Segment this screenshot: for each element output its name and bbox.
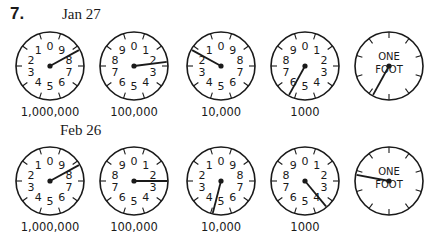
dial-numeral: 1 (313, 44, 320, 57)
dial-numeral: 5 (218, 80, 225, 93)
dial-tick (22, 161, 27, 165)
dial-tick (73, 161, 78, 165)
dial-tick (328, 197, 333, 201)
dial-tick (294, 34, 296, 40)
dial-tick (405, 153, 409, 158)
dial-tick (294, 93, 296, 99)
dial-numeral: 9 (229, 159, 236, 172)
dial-numeral: 1 (35, 159, 42, 172)
dial-numeral: 6 (229, 76, 236, 89)
dial-tick (357, 55, 363, 57)
dial-numeral: 2 (321, 54, 328, 67)
dial-hub (302, 178, 307, 183)
dial-numeral: 4 (142, 191, 149, 204)
dial-tick (143, 149, 145, 155)
dial-numeral: 0 (302, 155, 309, 168)
dial-numeral: 5 (47, 80, 54, 93)
dial-tick (106, 46, 111, 50)
dial-tick (106, 161, 111, 165)
dial-numeral: 2 (321, 169, 328, 182)
dial-tick (106, 197, 111, 201)
dial-tick (328, 46, 333, 50)
dial-numeral: 0 (131, 155, 138, 168)
dial-numeral: 9 (58, 159, 65, 172)
dial-caption: 100,000 (110, 220, 158, 234)
dial-numeral: 1 (35, 44, 42, 57)
dial-numeral: 4 (35, 191, 42, 204)
dial-tick (277, 46, 282, 50)
dial-numeral: 1 (142, 44, 149, 57)
dial-caption: 1,000,000 (21, 105, 80, 119)
dial-tick (39, 208, 41, 214)
dial-tick (22, 46, 27, 50)
dial-numeral: 3 (321, 66, 328, 79)
dial-caption: 1000 (290, 105, 319, 119)
dial-numeral: 5 (218, 195, 225, 208)
dial-tick (244, 46, 249, 50)
dial-tick (73, 82, 78, 86)
dial-tick (369, 89, 373, 94)
meter-dial-1-1: 01234567891,000,000 (16, 32, 84, 119)
dial-tick (143, 208, 145, 214)
dial-numeral: 9 (229, 44, 236, 57)
dial-numeral: 2 (27, 169, 34, 182)
dial-numeral: 8 (237, 54, 244, 67)
dial-numeral: 3 (27, 66, 34, 79)
one-foot-label: ONE (378, 51, 400, 62)
dial-tick (123, 93, 125, 99)
dial-tick (157, 197, 162, 201)
meter-dial-1-2: 0123456789100,000 (100, 32, 168, 119)
dial-tick (123, 208, 125, 214)
dial-numeral: 0 (131, 40, 138, 53)
dial-tick (357, 75, 363, 77)
dial-numeral: 3 (321, 181, 328, 194)
dial-numeral: 6 (119, 191, 126, 204)
dial-numeral: 9 (58, 44, 65, 57)
dial-numeral: 2 (198, 169, 205, 182)
dial-tick (59, 34, 61, 40)
dial-caption: 100,000 (110, 105, 158, 119)
dial-numeral: 6 (58, 76, 65, 89)
dial-tick (314, 93, 316, 99)
dial-numeral: 3 (150, 181, 157, 194)
dial-tick (405, 38, 409, 43)
dial-tick (328, 161, 333, 165)
dial-tick (405, 89, 409, 94)
dial-numeral: 4 (313, 76, 320, 89)
dial-tick (157, 161, 162, 165)
dial-numeral: 0 (47, 155, 54, 168)
dial-numeral: 7 (111, 181, 118, 194)
dial-numeral: 9 (290, 159, 297, 172)
dial-tick (143, 93, 145, 99)
dial-tick (230, 208, 232, 214)
dial-tick (73, 197, 78, 201)
dial-numeral: 2 (150, 169, 157, 182)
dial-tick (314, 34, 316, 40)
dial-numeral: 0 (47, 40, 54, 53)
dial-numeral: 5 (131, 80, 138, 93)
dial-tick (157, 82, 162, 86)
dial-tick (357, 190, 363, 192)
dial-numeral: 1 (313, 159, 320, 172)
one-foot-label: ONE (378, 166, 400, 177)
dial-tick (193, 46, 198, 50)
dial-numeral: 8 (282, 54, 289, 67)
meter-dial-1-4: 01234567891000 (271, 32, 339, 119)
dial-tick (193, 82, 198, 86)
dial-numeral: 6 (58, 191, 65, 204)
dial-numeral: 3 (150, 66, 157, 79)
dial-numeral: 0 (218, 40, 225, 53)
dial-tick (143, 34, 145, 40)
dial-tick (277, 82, 282, 86)
dial-tick (22, 197, 27, 201)
dial-numeral: 4 (206, 76, 213, 89)
dial-tick (416, 190, 422, 192)
dial-numeral: 9 (119, 159, 126, 172)
dial-numeral: 1 (206, 159, 213, 172)
meter-dial-1-5: ONEFOOT (355, 32, 423, 100)
dial-tick (193, 161, 198, 165)
dial-tick (369, 204, 373, 209)
dial-hub (131, 178, 136, 183)
meter-dial-2-3: 012345678910,000 (187, 147, 255, 234)
dial-tick (328, 82, 333, 86)
